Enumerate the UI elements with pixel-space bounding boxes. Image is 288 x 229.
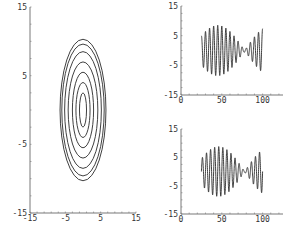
phase-portrait-plot: -15-5515155-5-15 bbox=[13, 3, 141, 223]
y-tick-label: -15 bbox=[13, 209, 28, 218]
orbit-curve bbox=[60, 39, 106, 180]
y-tick-label: -15 bbox=[164, 91, 179, 100]
time-series-top-plot: 050100155-5-15 bbox=[164, 2, 283, 105]
x-tick-label: 50 bbox=[217, 215, 227, 224]
x-tick-label: 100 bbox=[255, 215, 270, 224]
y-tick-label: -15 bbox=[164, 210, 179, 219]
y-tick-label: 15 bbox=[168, 2, 178, 11]
signal-curve bbox=[201, 25, 262, 75]
orbit-curve bbox=[79, 93, 86, 127]
x-tick-label: 0 bbox=[179, 96, 184, 105]
y-tick-label: 5 bbox=[22, 72, 27, 81]
x-tick-label: 15 bbox=[131, 214, 141, 223]
y-tick-label: -5 bbox=[168, 182, 178, 191]
signal-curve bbox=[201, 147, 262, 197]
y-tick-label: -5 bbox=[168, 61, 178, 70]
x-tick-label: 50 bbox=[217, 96, 227, 105]
y-tick-label: 15 bbox=[168, 125, 178, 134]
y-tick-label: 5 bbox=[173, 32, 178, 41]
x-tick-label: -5 bbox=[61, 214, 71, 223]
x-tick-label: 0 bbox=[179, 215, 184, 224]
y-tick-label: 5 bbox=[173, 153, 178, 162]
orbit-curve bbox=[65, 52, 102, 169]
x-tick-label: 5 bbox=[98, 214, 103, 223]
y-tick-label: -5 bbox=[17, 140, 27, 149]
orbit-curve bbox=[76, 83, 90, 138]
y-tick-label: 15 bbox=[17, 3, 27, 12]
figure-canvas: -15-5515155-5-15 050100155-5-15 05010015… bbox=[0, 0, 288, 229]
x-tick-label: 100 bbox=[255, 96, 270, 105]
time-series-bottom-plot: 050100155-5-15 bbox=[164, 125, 283, 224]
